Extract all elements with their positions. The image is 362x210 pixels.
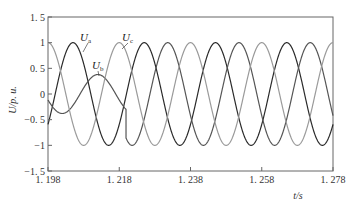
- x-tick-label: 1. 218: [107, 174, 132, 185]
- x-tick-label: 1. 198: [36, 174, 61, 185]
- leader-line: [98, 71, 99, 76]
- y-axis-label: U/p. u.: [7, 86, 18, 114]
- line-chart: 1. 510. 50−0. 5−1−1. 51. 1981. 2181. 238…: [0, 0, 362, 210]
- series-ua-line: [48, 43, 333, 146]
- y-tick-label: 0. 5: [30, 63, 45, 74]
- x-axis-label: t/s: [293, 190, 303, 201]
- plot-curves: [48, 43, 333, 146]
- y-tick-label: −0. 5: [24, 114, 45, 125]
- y-tick-label: 1. 5: [30, 12, 45, 23]
- leader-line: [83, 43, 88, 52]
- x-tick-label: 1. 278: [321, 174, 346, 185]
- x-tick-label: 1. 238: [178, 174, 203, 185]
- series-label-uc: Uc: [122, 31, 133, 45]
- y-tick-label: 1: [40, 37, 45, 48]
- x-tick-label: 1. 258: [249, 174, 274, 185]
- series-label-ub: Ub: [92, 59, 104, 73]
- series-label-ua: Ua: [80, 31, 92, 45]
- y-tick-label: 0: [40, 89, 45, 100]
- y-tick-label: −1: [34, 140, 45, 151]
- axis-ticks: 1. 510. 50−0. 5−1−1. 51. 1981. 2181. 238…: [24, 12, 345, 186]
